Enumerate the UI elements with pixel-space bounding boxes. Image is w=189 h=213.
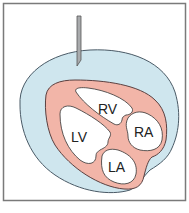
diagram-svg: RV RA LV LA xyxy=(0,0,189,213)
label-la: LA xyxy=(108,159,126,175)
heart-diagram: RV RA LV LA xyxy=(0,0,189,213)
label-rv: RV xyxy=(98,101,118,117)
needle xyxy=(77,16,81,66)
label-ra: RA xyxy=(134,124,154,140)
label-lv: LV xyxy=(71,129,88,145)
